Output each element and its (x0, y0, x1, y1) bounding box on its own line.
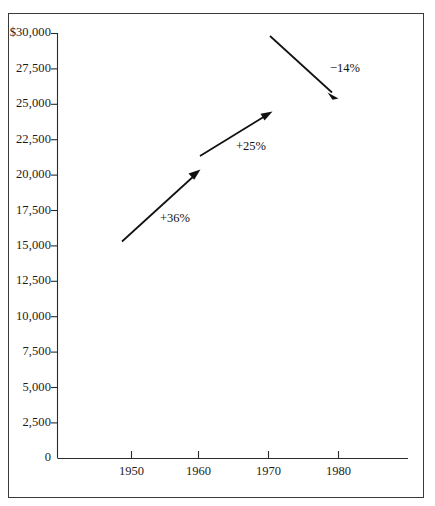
y-tick-label-22500: 22,500 (16, 132, 51, 147)
x-tick-label-1960: 1960 (169, 464, 229, 479)
x-axis-ticks (132, 451, 339, 459)
x-tick-label-1980: 1980 (309, 464, 369, 479)
y-tick-label-20000: 20,000 (16, 167, 51, 182)
y-tick-label-10000: 10,000 (16, 309, 51, 324)
annotation-minus-14: −14% (330, 61, 360, 76)
y-tick-label-17500: 17,500 (16, 203, 51, 218)
y-tick-label-30000: $30,000 (10, 25, 51, 40)
y-tick-label-27500: 27,500 (16, 61, 51, 76)
annotation-plus-25: +25% (236, 139, 266, 154)
chart-plot-area (0, 0, 435, 506)
chart-figure: $30,000 27,500 25,000 22,500 20,000 17,5… (0, 0, 435, 506)
x-tick-label-1970: 1970 (239, 464, 299, 479)
y-tick-label-25000: 25,000 (16, 96, 51, 111)
y-tick-label-2500: 2,500 (22, 415, 51, 430)
y-tick-label-15000: 15,000 (16, 238, 51, 253)
y-tick-label-7500: 7,500 (22, 344, 51, 359)
y-tick-label-12500: 12,500 (16, 273, 51, 288)
y-tick-label-0: 0 (45, 450, 51, 465)
x-tick-label-1950: 1950 (102, 464, 162, 479)
arrow-plus-36 (122, 170, 201, 242)
annotation-plus-36: +36% (160, 211, 190, 226)
y-tick-label-5000: 5,000 (22, 380, 51, 395)
y-axis-ticks (51, 34, 58, 423)
arrow-minus-14 (270, 36, 339, 100)
